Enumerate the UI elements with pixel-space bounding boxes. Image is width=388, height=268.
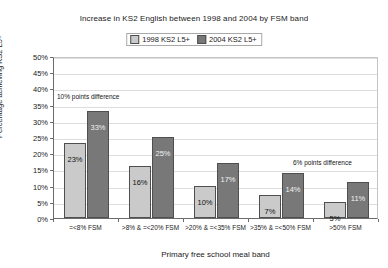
y-axis-title: Percentage achieving KS2 L5+	[0, 35, 4, 138]
y-axis-tick-mark	[50, 138, 53, 139]
y-axis-tick-label: 35%	[22, 101, 48, 110]
x-axis-tick-mark	[118, 219, 119, 222]
bar-1998: 23%	[64, 143, 86, 218]
x-axis-tick-label: >8% & =<20% FSM	[118, 224, 183, 232]
chart-title: Increase in KS2 English between 1998 and…	[0, 14, 388, 23]
y-axis-tick-mark	[50, 203, 53, 204]
x-axis-tick-mark	[378, 219, 379, 222]
x-axis-tick-mark	[183, 219, 184, 222]
x-axis-tick-mark	[248, 219, 249, 222]
y-axis-tick-label: 0%	[22, 215, 48, 224]
y-axis-tick-label: 5%	[22, 198, 48, 207]
y-axis-tick-label: 20%	[22, 150, 48, 159]
x-axis-tick-mark	[313, 219, 314, 222]
bar-value-label: 7%	[260, 208, 280, 216]
bar-1998: 7%	[259, 195, 281, 218]
bar-value-label: 33%	[88, 124, 108, 132]
legend-item-2004: 2004 KS2 L5+	[197, 35, 257, 44]
bar-1998: 10%	[194, 186, 216, 218]
bar-2004: 14%	[282, 173, 304, 218]
gridline	[54, 74, 377, 75]
y-axis-tick-label: 40%	[22, 85, 48, 94]
legend-swatch-icon-2004	[197, 35, 206, 44]
x-axis-tick-label: >35% & =<50% FSM	[248, 224, 313, 232]
y-axis-tick-mark	[50, 73, 53, 74]
gridline	[54, 107, 377, 108]
bar-value-label: 5%	[325, 215, 345, 223]
y-axis-tick-label: 30%	[22, 117, 48, 126]
x-axis-title: Primary free school meal band	[53, 250, 378, 259]
y-axis-tick-label: 45%	[22, 69, 48, 78]
y-axis-tick-mark	[50, 106, 53, 107]
bar-1998: 16%	[129, 166, 151, 218]
x-axis-tick-label: >20% & =<35% FSM	[183, 224, 248, 232]
bar-value-label: 10%	[195, 199, 215, 207]
y-axis-tick-label: 10%	[22, 182, 48, 191]
bar-value-label: 25%	[153, 150, 173, 158]
gridline	[54, 90, 377, 91]
bar-2004: 25%	[152, 137, 174, 218]
legend-label-1998: 1998 KS2 L5+	[142, 36, 190, 44]
bar-2004: 17%	[217, 163, 239, 218]
y-axis-tick-label: 25%	[22, 134, 48, 143]
annotation-right: 6% points difference	[293, 159, 352, 166]
bar-2004: 33%	[87, 111, 109, 218]
x-axis-tick-label: >50% FSM	[313, 224, 378, 232]
annotation-left: 10% points difference	[57, 93, 119, 100]
bar-value-label: 14%	[283, 186, 303, 194]
bar-value-label: 16%	[130, 179, 150, 187]
y-axis-tick-mark	[50, 170, 53, 171]
y-axis-tick-label: 50%	[22, 53, 48, 62]
gridline	[54, 58, 377, 59]
chart-legend: 1998 KS2 L5+ 2004 KS2 L5+	[126, 33, 262, 46]
plot-area: 23%33%16%25%10%17%7%14%5%11%	[53, 57, 378, 219]
y-axis-tick-mark	[50, 89, 53, 90]
legend-label-2004: 2004 KS2 L5+	[209, 36, 257, 44]
y-axis-tick-mark	[50, 154, 53, 155]
bar-value-label: 17%	[218, 176, 238, 184]
bar-2004: 11%	[347, 182, 369, 218]
legend-swatch-icon-1998	[130, 35, 139, 44]
y-axis-tick-mark	[50, 187, 53, 188]
legend-item-1998: 1998 KS2 L5+	[130, 35, 190, 44]
bar-1998: 5%	[324, 202, 346, 218]
x-axis-tick-label: =<8% FSM	[53, 224, 118, 232]
y-axis-tick-label: 15%	[22, 166, 48, 175]
y-axis-tick-mark	[50, 122, 53, 123]
bar-value-label: 23%	[65, 156, 85, 164]
y-axis-tick-mark	[50, 57, 53, 58]
chart-container: Increase in KS2 English between 1998 and…	[0, 0, 388, 268]
x-axis-tick-mark	[53, 219, 54, 222]
bar-value-label: 11%	[348, 195, 368, 203]
